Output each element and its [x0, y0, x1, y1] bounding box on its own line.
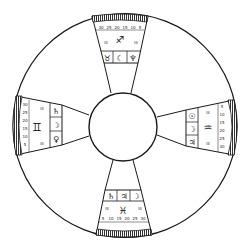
- sign-symbol-gemini: ♊: [32, 121, 42, 134]
- scale-label: 5: [139, 25, 142, 30]
- side-label: III: [138, 206, 142, 211]
- sign-symbol-pisces: ♓: [119, 205, 128, 216]
- side-label: III: [206, 110, 210, 115]
- planet-symbol: ♃: [188, 138, 195, 147]
- planet-symbol: ♀: [53, 135, 59, 144]
- side-label: III: [40, 106, 44, 111]
- scale-label: 20: [22, 118, 28, 123]
- scale-label: 10: [130, 25, 136, 30]
- scale-label: 30: [98, 25, 104, 30]
- sign-symbol-aquarius: ♒: [204, 122, 213, 133]
- side-label: III: [40, 141, 44, 146]
- planet-symbol: ♃: [120, 192, 127, 201]
- panel-bottom: 5 10 15 20 25 30 III III ♓ ♄ ♃ ☽: [96, 160, 152, 237]
- scale-label: 25: [22, 110, 28, 115]
- scale-label: 15: [22, 126, 28, 131]
- planet-symbol: ☽: [188, 125, 195, 134]
- scale-label: 10: [219, 112, 225, 117]
- inner-hub: [89, 93, 157, 161]
- side-label: III: [105, 206, 109, 211]
- panel-right: 5 10 15 20 25 30 III III ♒ ☉ ☽ ♃: [157, 100, 237, 155]
- scale-label: 30: [22, 102, 28, 107]
- scale-label: 25: [132, 216, 138, 221]
- dial-diagram: Quadrant zodiac dial 30 25 20: [0, 0, 250, 251]
- panel-left: 30 25 20 15 10 5 III III ♊ ♄ ☽ ♀: [13, 96, 89, 155]
- scale-label: 30: [140, 216, 146, 221]
- scale-label: 25: [106, 25, 112, 30]
- scale-label: 5: [24, 142, 27, 147]
- scale-label: 15: [122, 25, 128, 30]
- dial-svg: 30 25 20 15 10 5 III III ♐ ♉ ☾ ♆: [0, 0, 250, 251]
- scale-label: 25: [219, 136, 225, 141]
- scale-label: 5: [221, 104, 224, 109]
- scale-label: 10: [22, 134, 28, 139]
- scale-label: 30: [219, 144, 225, 149]
- panel-top: 30 25 20 15 10 5 III III ♐ ♉ ☾ ♆: [92, 14, 148, 93]
- scale-label: 5: [102, 216, 105, 221]
- scale-label: 10: [108, 216, 114, 221]
- scale-label: 15: [116, 216, 122, 221]
- planet-symbol: ☾: [116, 54, 123, 63]
- planet-symbol: ☽: [132, 192, 139, 201]
- scale-label: 20: [219, 128, 225, 133]
- side-label: III: [104, 40, 108, 45]
- planet-symbol: ☉: [188, 112, 195, 121]
- scale-label: 15: [219, 120, 225, 125]
- side-label: III: [206, 141, 210, 146]
- planet-symbol: ♄: [107, 192, 114, 201]
- planet-symbol: ☽: [52, 121, 59, 130]
- planet-symbol: ♉: [103, 54, 110, 63]
- planet-symbol: ♄: [52, 107, 59, 116]
- sign-symbol-sagittarius: ♐: [116, 34, 125, 45]
- side-label: III: [134, 40, 138, 45]
- scale-label: 20: [124, 216, 130, 221]
- planet-symbol: ♆: [129, 54, 136, 63]
- scale-label: 20: [114, 25, 120, 30]
